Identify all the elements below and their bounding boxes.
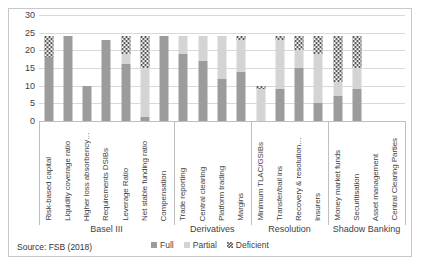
category-label: Minimum TLAC/GSIBs [257,141,265,221]
bar-segment-full [275,89,284,121]
category-label-slot: Money market funds [328,121,347,221]
x-axis-group-labels: Basel IIIDerivativesResolutionShadow Ban… [39,221,405,237]
category-label-slot: Securitisation [347,121,366,221]
category-label-slot: Recovery & resolution… [289,121,308,221]
category-label: Central Clearing Parties [391,137,399,221]
bar-slot [116,15,135,121]
bar-segment-partial [295,50,304,68]
y-tick-label-20: 20 [25,46,35,55]
legend-swatch-full-icon [151,242,157,248]
stacked-bar[interactable] [333,36,342,121]
bar-segment-full [352,89,361,121]
category-label: Leverage Ratio [122,167,130,221]
bar-segment-deficient [333,36,342,82]
category-label-slot: Trade reporting [174,121,193,221]
stacked-bar[interactable] [63,36,72,121]
stacked-bar[interactable] [121,36,130,121]
stacked-bar[interactable] [140,36,149,121]
bar-segment-deficient [352,36,361,68]
y-tick-label-5: 5 [30,99,35,108]
bar-segment-partial [237,40,246,72]
y-tick-label-10: 10 [25,81,35,90]
bar-segment-partial [314,54,323,103]
legend-label: Partial [193,240,217,250]
legend-item-full[interactable]: Full [151,240,174,250]
legend-label: Full [160,240,174,250]
stacked-bar[interactable] [314,36,323,121]
bar-slot [193,15,212,121]
stacked-bar[interactable] [44,36,53,121]
bar-slot [78,15,97,121]
bar-segment-full [160,36,169,121]
bar-slot [289,15,308,121]
group-separator [39,121,40,225]
legend-item-deficient[interactable]: Deficient [227,240,269,250]
bar-segment-full [63,36,72,121]
plot-area: 051015202530 [39,15,405,121]
bar-slot [386,15,405,121]
bar-segment-deficient [295,36,304,50]
stacked-bar[interactable] [83,86,92,121]
bar-slot [135,15,154,121]
category-label: Liquidity coverage ratio [64,140,72,221]
stacked-bar[interactable] [256,86,265,121]
category-label-slot: Leverage Ratio [116,121,135,221]
category-label-slot: Liquidity coverage ratio [58,121,77,221]
bar-slot [39,15,58,121]
bar-slot [328,15,347,121]
bar-series-container [39,15,405,121]
category-label-slot: Net stable funding ratio [135,121,154,221]
category-label: Risk-based capital [45,156,53,221]
category-label-slot: Risk-based capital [39,121,58,221]
category-label-slot: Transfer/bail ins [270,121,289,221]
group-label-basel-iii: Basel III [39,221,174,237]
group-separator [251,121,252,225]
group-separator [174,121,175,225]
bar-segment-full [102,40,111,121]
category-label: Compensation [160,170,168,221]
category-label: Trade reporting [179,167,187,221]
category-label-slot: Central clearing [193,121,212,221]
stacked-bar[interactable] [275,36,284,121]
category-label-slot: Compensation [155,121,174,221]
category-label: Insurers [314,192,322,221]
bar-segment-full [218,79,227,121]
bar-segment-full [121,64,130,121]
bar-slot [97,15,116,121]
category-label-slot: Asset management [367,121,386,221]
category-label-slot: Central Clearing Parties [386,121,405,221]
bar-slot [367,15,386,121]
group-label-shadow-banking: Shadow Banking [328,221,405,237]
y-tick-label-15: 15 [25,64,35,73]
legend-item-partial[interactable]: Partial [184,240,217,250]
stacked-bar[interactable] [198,36,207,121]
stacked-bar[interactable] [160,36,169,121]
x-axis-category-labels: Risk-based capitalLiquidity coverage rat… [39,121,405,221]
bar-segment-full [237,72,246,121]
bar-segment-partial [275,40,284,89]
bar-segment-full [83,86,92,121]
stacked-bar[interactable] [102,40,111,121]
legend-label: Deficient [236,240,269,250]
bar-segment-full [295,68,304,121]
category-label: Margins [237,192,245,221]
stacked-bar[interactable] [179,36,188,121]
bar-segment-partial [121,54,130,65]
stacked-bar[interactable] [237,36,246,121]
bar-segment-full [198,61,207,121]
stacked-bar[interactable] [295,36,304,121]
category-label-slot: Platform trading [212,121,231,221]
category-label-slot: Margins [232,121,251,221]
source-note: Source: FSB (2018) [17,242,92,252]
category-label: Higher loss absorbency… [83,131,91,221]
bar-segment-full [179,54,188,121]
bar-slot [155,15,174,121]
category-label: Platform trading [218,165,226,221]
category-label-slot: Insurers [309,121,328,221]
group-label-derivatives: Derivatives [174,221,251,237]
category-label-slot: Minimum TLAC/GSIBs [251,121,270,221]
bar-segment-full [333,96,342,121]
stacked-bar[interactable] [218,36,227,121]
stacked-bar[interactable] [352,36,361,121]
bar-slot [251,15,270,121]
